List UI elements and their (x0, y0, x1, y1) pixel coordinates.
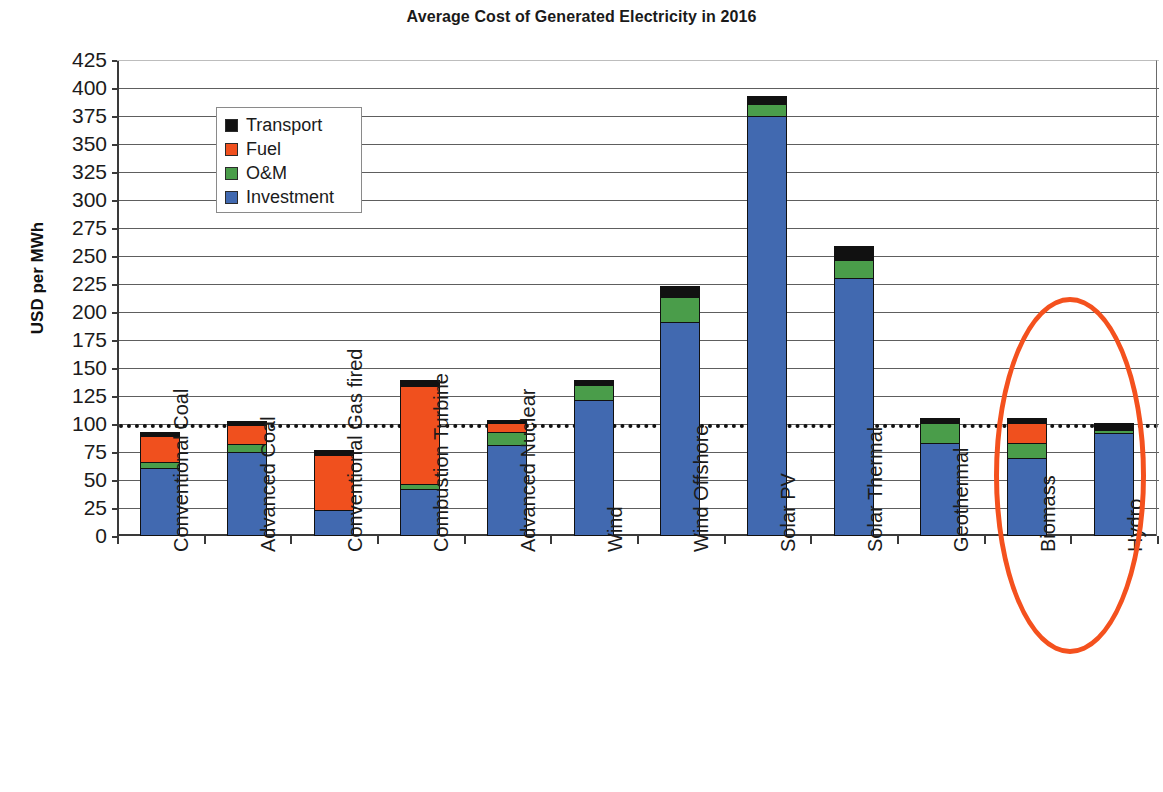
x-axis-tick (550, 536, 552, 544)
x-axis-tick (204, 536, 206, 544)
legend-swatch-fuel (225, 143, 238, 156)
y-axis-tick (112, 172, 119, 174)
legend-swatch-om (225, 167, 238, 180)
legend-label-transport: Transport (246, 116, 322, 134)
bar-stack[interactable] (574, 60, 614, 536)
legend-item[interactable]: Investment (225, 185, 361, 209)
x-axis-tick (377, 536, 379, 544)
y-axis-tick (112, 312, 119, 314)
gridline (119, 284, 1159, 285)
highlight-ellipse-hydro (994, 297, 1146, 654)
bar-segment-om (834, 260, 874, 278)
gridline (119, 228, 1159, 229)
bar-segment-transport (834, 246, 874, 261)
legend-item[interactable]: O&M (225, 161, 361, 185)
bar-segment-transport (920, 418, 960, 422)
y-axis-tick (112, 88, 119, 90)
chart-title: Average Cost of Generated Electricity in… (0, 8, 1163, 26)
y-axis-tick (112, 396, 119, 398)
gridline (119, 340, 1159, 341)
y-axis-tick-label: 300 (29, 189, 107, 210)
x-axis-category-label: Wind (604, 506, 627, 552)
y-axis-tick-label: 100 (29, 413, 107, 434)
y-axis-tick (112, 116, 119, 118)
chart-container: Average Cost of Generated Electricity in… (0, 0, 1163, 792)
legend: Transport Fuel O&M Investment (216, 107, 362, 213)
legend-label-om: O&M (246, 164, 287, 182)
x-axis-tick (1157, 536, 1159, 544)
legend-item[interactable]: Transport (225, 113, 361, 137)
legend-item[interactable]: Fuel (225, 137, 361, 161)
gridline (119, 256, 1159, 257)
footer-note (0, 770, 1163, 792)
x-axis-category-label: Conventional Coal (170, 389, 193, 552)
y-axis-tick-label: 350 (29, 133, 107, 154)
legend-swatch-investment (225, 191, 238, 204)
y-axis-tick (112, 508, 119, 510)
y-axis-tick (112, 284, 119, 286)
y-axis-tick (112, 368, 119, 370)
x-axis-tick (897, 536, 899, 544)
x-axis-category-label: Wind Offshore (690, 425, 713, 552)
x-axis-category-label: Combustion Turbine (430, 373, 453, 552)
y-axis-tick-label: 200 (29, 301, 107, 322)
y-axis-tick (112, 228, 119, 230)
x-axis-category-label: Solar Thermal (864, 427, 887, 552)
x-axis-category-label: Advanced Nuclear (517, 389, 540, 552)
y-axis-tick-label: 250 (29, 245, 107, 266)
bar-segment-om (660, 297, 700, 322)
x-axis-tick (984, 536, 986, 544)
y-axis-tick-label: 325 (29, 161, 107, 182)
y-axis-tick-label: 25 (29, 497, 107, 518)
x-axis-category-label: Solar PV (777, 473, 800, 552)
y-axis-tick-label: 400 (29, 77, 107, 98)
legend-label-investment: Investment (246, 188, 334, 206)
x-axis-tick (724, 536, 726, 544)
y-axis-tick (112, 200, 119, 202)
y-axis-tick-label: 225 (29, 273, 107, 294)
bar-segment-transport (660, 286, 700, 297)
x-axis-tick (810, 536, 812, 544)
y-axis-tick (112, 452, 119, 454)
bar-segment-transport (574, 380, 614, 384)
x-axis-category-label: Advanced Coal (257, 416, 280, 552)
y-axis-tick-label: 175 (29, 329, 107, 350)
gridline (119, 312, 1159, 313)
y-axis-tick-label: 275 (29, 217, 107, 238)
bar-segment-om (747, 104, 787, 116)
x-axis-tick (464, 536, 466, 544)
bar-stack[interactable] (747, 60, 787, 536)
gridline (119, 60, 1159, 61)
y-axis-tick (112, 144, 119, 146)
bar-segment-om (574, 385, 614, 401)
gridline (119, 88, 1159, 89)
x-axis-category-label: Geothermal (950, 448, 973, 553)
y-axis-tick-label: 0 (29, 525, 107, 546)
y-axis-tick-label: 150 (29, 357, 107, 378)
y-axis-tick-label: 125 (29, 385, 107, 406)
x-axis-category-label: Conventional Gas fired (344, 349, 367, 552)
x-axis-tick (290, 536, 292, 544)
legend-label-fuel: Fuel (246, 140, 281, 158)
x-axis-tick (637, 536, 639, 544)
y-axis-tick (112, 256, 119, 258)
y-axis-tick (112, 424, 119, 426)
y-axis-tick-label: 50 (29, 469, 107, 490)
y-axis-tick-label: 425 (29, 49, 107, 70)
bar-segment-om (920, 423, 960, 443)
x-axis-tick (117, 536, 119, 544)
y-axis-tick (112, 480, 119, 482)
y-axis-tick-label: 375 (29, 105, 107, 126)
bar-segment-transport (747, 96, 787, 104)
gridline (119, 368, 1159, 369)
y-axis-tick (112, 60, 119, 62)
y-axis-tick (112, 340, 119, 342)
y-axis-tick-label: 75 (29, 441, 107, 462)
legend-swatch-transport (225, 119, 238, 132)
